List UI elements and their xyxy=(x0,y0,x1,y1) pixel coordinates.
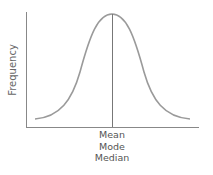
mode-label: Mode xyxy=(82,141,142,153)
y-axis-label-text: Frequency xyxy=(7,44,18,96)
y-axis-label: Frequency xyxy=(2,60,22,80)
median-label: Median xyxy=(82,152,142,164)
mean-label: Mean xyxy=(82,129,142,141)
center-labels: Mean Mode Median xyxy=(82,129,142,164)
